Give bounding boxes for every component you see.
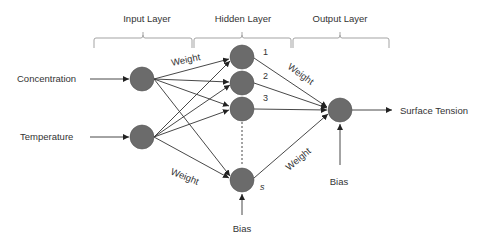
hidden-bias-label: Bias bbox=[233, 223, 252, 234]
output-layer-title: Output Layer bbox=[313, 13, 368, 24]
hidden-node-3 bbox=[230, 97, 254, 121]
hidden-index-3: 3 bbox=[263, 93, 268, 103]
concentration-label: Concentration bbox=[17, 73, 76, 84]
input-node-temperature bbox=[130, 125, 154, 149]
hidden-index-s: s bbox=[260, 182, 265, 192]
temperature-label: Temperature bbox=[20, 131, 73, 142]
hidden-node-2 bbox=[230, 71, 254, 95]
weight-label-top-input: Weight bbox=[170, 51, 201, 68]
input-node-concentration bbox=[130, 67, 154, 91]
hidden-node-s bbox=[230, 168, 254, 192]
weight-label-top-output: Weight bbox=[286, 61, 317, 87]
hidden-index-2: 2 bbox=[263, 71, 268, 81]
surface-tension-label: Surface Tension bbox=[400, 105, 468, 116]
hidden-node-1 bbox=[230, 45, 254, 69]
weight-label-bottom-input: Weight bbox=[169, 166, 201, 187]
input-bracket bbox=[94, 32, 192, 48]
output-node bbox=[328, 98, 352, 122]
neural-network-diagram: Input Layer Hidden Layer Output Layer Co… bbox=[0, 0, 485, 244]
hidden-layer-title: Hidden Layer bbox=[215, 13, 272, 24]
input-layer-title: Input Layer bbox=[123, 13, 171, 24]
output-bias-label: Bias bbox=[330, 176, 349, 187]
hidden-index-1: 1 bbox=[263, 47, 268, 57]
output-bracket bbox=[293, 32, 389, 48]
